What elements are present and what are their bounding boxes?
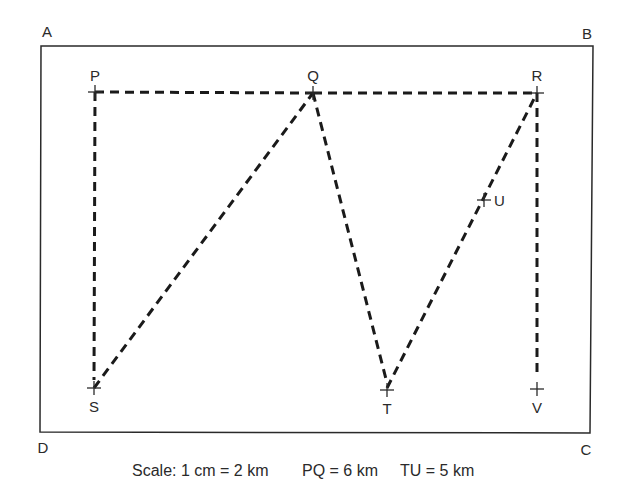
route-s-q: [94, 93, 313, 388]
caption: Scale: 1 cm = 2 km PQ = 6 km TU = 5 km: [132, 462, 474, 479]
point-label-p: P: [90, 67, 100, 84]
corner-labels: ABCD: [38, 23, 592, 458]
cross-marker-icon: [88, 85, 102, 99]
cross-marker-icon: [380, 383, 394, 397]
corner-label-a: A: [42, 23, 52, 40]
point-label-v: V: [532, 399, 542, 416]
point-label-t: T: [382, 400, 391, 417]
map-frame-rectangle: [40, 46, 593, 433]
dashed-routes: [94, 92, 537, 388]
point-q: Q: [306, 67, 320, 100]
route-points: PQRSTUV: [87, 67, 544, 417]
point-label-u: U: [494, 192, 505, 209]
point-r: R: [530, 67, 544, 100]
point-t: T: [380, 383, 394, 417]
route-p-s: [94, 92, 95, 380]
point-u: U: [477, 192, 505, 209]
cross-marker-icon: [477, 193, 491, 207]
corner-label-b: B: [582, 25, 592, 42]
cross-marker-icon: [530, 86, 544, 100]
tu-distance-text: TU = 5 km: [400, 462, 474, 479]
corner-label-d: D: [38, 439, 49, 456]
scale-text: Scale: 1 cm = 2 km: [132, 462, 269, 479]
cross-marker-icon: [530, 382, 544, 396]
route-t-r: [387, 93, 537, 388]
corner-label-c: C: [581, 441, 592, 458]
route-q-t: [313, 93, 387, 383]
point-s: S: [87, 381, 101, 415]
pq-distance-text: PQ = 6 km: [302, 462, 378, 479]
route-p-q: [95, 92, 313, 93]
route-diagram: PQRSTUV ABCD Scale: 1 cm = 2 km PQ = 6 k…: [0, 0, 632, 504]
point-label-s: S: [89, 398, 99, 415]
point-label-q: Q: [307, 67, 319, 84]
point-label-r: R: [532, 67, 543, 84]
point-v: V: [530, 382, 544, 416]
point-p: P: [88, 67, 102, 99]
